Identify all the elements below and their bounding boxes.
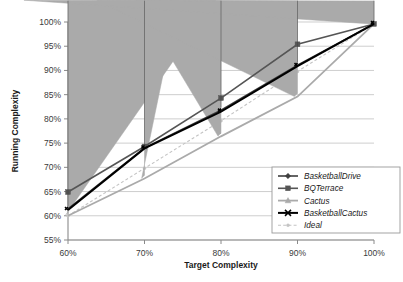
legend-item-label: Ideal xyxy=(304,221,322,230)
legend-item-label: BQTerrace xyxy=(304,184,344,193)
marker-cross xyxy=(65,207,68,210)
line-chart: 55%60%65%70%75%80%85%90%95%100% 60%70%80… xyxy=(0,0,403,282)
y-tick-label: 100% xyxy=(39,17,61,27)
legend-item-label: BasketballDrive xyxy=(304,172,361,181)
chart-container: 55%60%65%70%75%80%85%90%95%100% 60%70%80… xyxy=(0,0,403,282)
legend-item-label: BasketballCactus xyxy=(304,209,367,218)
legend-item-label: Cactus xyxy=(304,197,329,206)
marker-cross xyxy=(295,63,298,66)
y-tick-label: 80% xyxy=(44,114,61,124)
x-tick-label: 90% xyxy=(289,248,306,258)
y-tick-label: 70% xyxy=(44,162,61,172)
marker-cross xyxy=(371,21,374,24)
x-tick-label: 60% xyxy=(59,248,76,258)
marker-square xyxy=(286,186,291,191)
y-tick-label: 60% xyxy=(44,211,61,221)
y-tick-label: 85% xyxy=(44,90,61,100)
y-tick-label: 65% xyxy=(44,187,61,197)
y-tick-label: 75% xyxy=(44,138,61,148)
y-tick-label: 55% xyxy=(44,235,61,245)
marker-dot xyxy=(287,224,290,227)
x-axis-title: Target Complexity xyxy=(184,260,258,270)
y-tick-label: 95% xyxy=(44,41,61,51)
x-tick-label: 80% xyxy=(212,248,229,258)
y-axis-title: Running Complexity xyxy=(10,89,20,172)
y-tick-label: 90% xyxy=(44,65,61,75)
marker-cross xyxy=(218,109,221,112)
x-tick-label: 70% xyxy=(136,248,153,258)
marker-cross xyxy=(142,145,145,148)
chart-legend: BasketballDriveBQTerraceCactusBasketball… xyxy=(272,167,400,233)
x-tick-label: 100% xyxy=(363,248,385,258)
